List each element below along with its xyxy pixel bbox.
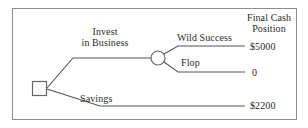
branch-label-invest: Invest in Business xyxy=(62,26,148,48)
branch-label-invest-line1: Invest xyxy=(62,26,148,37)
outcome-column-header-line2: Position xyxy=(240,23,298,34)
chance-circle-node xyxy=(151,51,165,65)
branch-label-savings: Savings xyxy=(80,93,112,104)
branch-invest-line xyxy=(47,58,151,88)
outcome-column-header-line1: Final Cash xyxy=(240,12,298,23)
outcome-value-flop: 0 xyxy=(252,67,257,78)
outcome-value-savings: $2200 xyxy=(250,100,276,111)
branch-label-invest-line2: in Business xyxy=(62,37,148,48)
outcome-column-header: Final Cash Position xyxy=(240,12,298,34)
branch-wild-success-line xyxy=(164,46,245,54)
branch-savings-line xyxy=(47,89,245,106)
branch-label-wild-success: Wild Success xyxy=(177,32,232,43)
decision-square-node xyxy=(33,82,47,96)
outcome-value-wild-success: $5000 xyxy=(250,41,276,52)
branch-flop-line xyxy=(164,62,245,72)
decision-tree-figure: Invest in Business Wild Success Flop Sav… xyxy=(0,0,308,128)
branch-label-flop: Flop xyxy=(181,57,200,68)
